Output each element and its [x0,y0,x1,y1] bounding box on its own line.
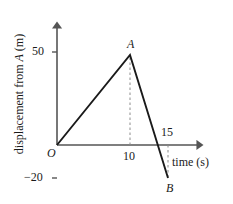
x-tick-label-15: 15 [161,126,173,138]
x-axis-title: time (s) [172,156,209,168]
y-tick-label-neg20: −20 [24,171,43,183]
origin-label: O [47,147,56,159]
displacement-time-chart: displacement from A (m) time (s) 50 −20 … [0,0,233,204]
y-axis-title-post: (m) [12,34,26,54]
point-b-label: B [166,182,173,194]
x-tick-label-10: 10 [123,150,135,162]
point-a-label: A [127,38,134,50]
y-axis-title-italic: A [12,54,26,61]
displacement-line [57,55,168,178]
y-tick-label-50: 50 [32,45,44,57]
y-axis-title-pre: displacement from [12,62,26,155]
y-axis-title: displacement from A (m) [13,19,25,169]
